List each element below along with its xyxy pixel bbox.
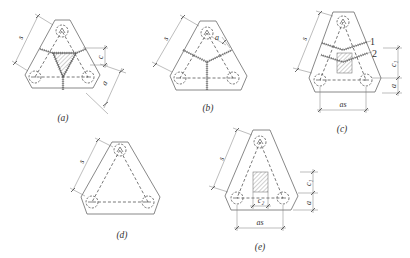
figure-a: s c a (a)	[12, 14, 126, 124]
figure-caption: (a)	[57, 113, 68, 124]
figure-d: s (d)	[70, 138, 160, 241]
dimension-label: as	[256, 218, 263, 227]
dimension-label: a	[100, 79, 110, 86]
piles	[231, 136, 289, 204]
dimension-s: s	[70, 138, 113, 196]
dimension-label-c1: c₁	[304, 179, 313, 186]
dimension-label: s	[161, 35, 170, 42]
dimension-s: s	[12, 14, 53, 71]
dimension-label-a: a	[304, 201, 313, 205]
dimension-label: s	[77, 158, 86, 165]
column-section-hatched	[337, 53, 352, 73]
crack-label-2: 2	[372, 48, 377, 59]
dimension-label: as	[339, 100, 346, 109]
dimension-s: s	[293, 11, 333, 73]
dimension-as: as	[234, 205, 286, 231]
column-section-hatched	[253, 172, 268, 192]
dimension-c2: c₂	[250, 192, 271, 209]
piles	[86, 144, 154, 208]
dimension-label: s	[16, 34, 25, 41]
pile-cap-outline	[170, 21, 247, 90]
dimension-c: c	[83, 45, 108, 68]
dimension-c1-a: c₁ a	[293, 169, 318, 213]
figure-b: s a (b)	[152, 15, 247, 114]
figure-caption: (b)	[202, 103, 213, 114]
crack-lines	[183, 50, 232, 90]
crack-line-1	[322, 42, 367, 50]
figure-caption: (c)	[337, 124, 348, 135]
piles	[314, 16, 372, 86]
crack-label-1: 1	[370, 36, 375, 47]
pile-center-triangle	[180, 33, 233, 78]
dimension-label-c1: c₁	[389, 60, 398, 67]
dimension-a: a	[86, 64, 126, 114]
dimension-s: s	[152, 15, 199, 72]
dimension-label: c	[96, 55, 105, 59]
figure-e: s c₂ c₁ a as (e)	[209, 128, 318, 253]
pile-center-triangle	[92, 150, 148, 202]
pile-cap-diagram: s c a (a)	[0, 0, 410, 258]
pile-cap-outline	[81, 142, 160, 214]
figure-caption: (d)	[116, 230, 127, 241]
dimension-label: a	[215, 33, 219, 42]
piles	[174, 27, 239, 84]
figure-c: 1 2 s c₁ a	[293, 11, 402, 135]
dimension-label: c₂	[258, 196, 265, 205]
figure-caption: (e)	[255, 242, 266, 253]
dimension-label: s	[300, 35, 310, 41]
dimension-as: as	[317, 87, 369, 113]
dimension-label-a: a	[389, 84, 398, 88]
dimension-label: s	[217, 155, 227, 161]
